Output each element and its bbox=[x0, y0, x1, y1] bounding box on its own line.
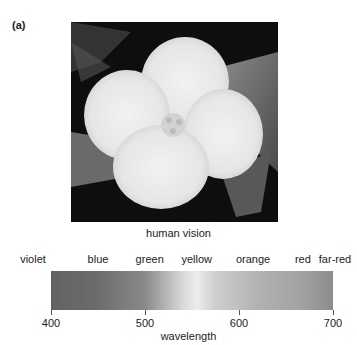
tick-label-500: 500 bbox=[136, 317, 154, 329]
petal bbox=[113, 125, 209, 209]
spectrum-bar bbox=[51, 271, 333, 310]
color-label-blue: blue bbox=[88, 253, 109, 265]
tick-700 bbox=[333, 310, 334, 315]
color-label-orange: orange bbox=[236, 253, 270, 265]
tick-label-700: 700 bbox=[324, 317, 342, 329]
color-label-far-red: far-red bbox=[319, 253, 351, 265]
color-label-yellow: yellow bbox=[181, 253, 212, 265]
flower-photo bbox=[71, 22, 278, 222]
color-label-red: red bbox=[295, 253, 311, 265]
color-label-violet: violet bbox=[20, 253, 46, 265]
tick-600 bbox=[239, 310, 240, 315]
color-label-green: green bbox=[136, 253, 164, 265]
flower-image bbox=[71, 22, 278, 222]
tick-400 bbox=[51, 310, 52, 315]
tick-500 bbox=[145, 310, 146, 315]
tick-label-400: 400 bbox=[42, 317, 60, 329]
tick-label-600: 600 bbox=[230, 317, 248, 329]
axis-title: wavelength bbox=[0, 330, 357, 342]
panel-label: (a) bbox=[12, 19, 25, 31]
figure-caption: human vision bbox=[0, 227, 357, 239]
